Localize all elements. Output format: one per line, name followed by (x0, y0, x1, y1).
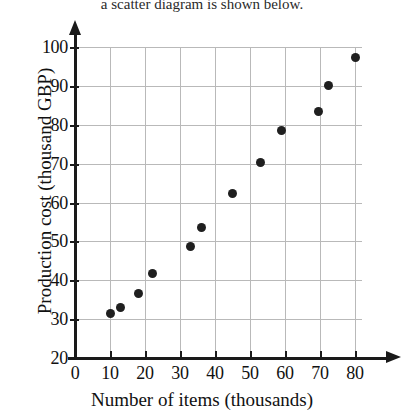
gridline-horizontal (75, 319, 362, 320)
x-axis-tick (355, 351, 357, 360)
x-axis-tick-label: 50 (230, 364, 270, 382)
data-point (314, 107, 323, 116)
y-axis-line (74, 33, 77, 360)
y-axis-tick (70, 125, 79, 127)
x-axis-tick-label: 10 (90, 364, 130, 382)
x-axis-tick-label: 60 (265, 364, 305, 382)
data-point (148, 269, 157, 278)
y-axis-tick-label: 100 (42, 38, 68, 56)
gridline-horizontal (75, 125, 362, 126)
gridline-horizontal (75, 86, 362, 87)
x-axis-line (68, 357, 388, 360)
y-axis-tick-label: 50 (51, 232, 68, 250)
data-point (324, 81, 333, 90)
x-axis-tick-label: 30 (160, 364, 200, 382)
gridline-horizontal (75, 164, 362, 165)
y-axis-tick-label: 90 (51, 77, 68, 95)
x-axis-arrowhead (386, 351, 401, 363)
y-axis-tick-label: 60 (51, 194, 68, 212)
gridline-horizontal (75, 280, 362, 281)
x-axis-tick (320, 351, 322, 360)
y-axis-tick (70, 280, 79, 282)
x-axis-title: Number of items (thousands) (0, 389, 404, 411)
gridline-horizontal (75, 203, 362, 204)
scatter-diagram-figure: a scatter diagram is shown below. Number… (0, 0, 404, 415)
plot-area (75, 47, 362, 358)
y-axis-tick-label: 40 (51, 271, 68, 289)
gridline-horizontal (75, 241, 362, 242)
gridline-horizontal (75, 47, 362, 48)
data-point (256, 158, 265, 167)
page-text-fragment: a scatter diagram is shown below. (0, 0, 404, 12)
data-point (134, 289, 143, 298)
y-axis-tick (70, 319, 79, 321)
x-axis-tick (145, 351, 147, 360)
x-axis-tick-label: 40 (195, 364, 235, 382)
data-point (106, 309, 115, 318)
data-point (228, 189, 237, 198)
x-axis-tick-label: 70 (300, 364, 340, 382)
y-axis-tick (70, 241, 79, 243)
x-axis-tick (180, 351, 182, 360)
y-axis-tick (70, 164, 79, 166)
y-axis-tick (70, 203, 79, 205)
x-axis-tick (285, 351, 287, 360)
x-axis-tick-label: 0 (55, 364, 95, 382)
data-point (186, 242, 195, 251)
data-point (197, 223, 206, 232)
y-axis-tick (70, 86, 79, 88)
x-axis-tick-label: 80 (335, 364, 375, 382)
x-axis-tick (250, 351, 252, 360)
data-point (351, 53, 360, 62)
x-axis-tick (110, 351, 112, 360)
x-axis-tick (75, 351, 77, 360)
y-axis-tick-label: 70 (51, 155, 68, 173)
x-axis-tick-label: 20 (125, 364, 165, 382)
y-axis-tick-label: 80 (51, 116, 68, 134)
y-axis-tick-label: 30 (51, 310, 68, 328)
y-axis-tick (70, 47, 79, 49)
data-point (116, 303, 125, 312)
y-axis-arrowhead (69, 20, 81, 35)
x-axis-tick (215, 351, 217, 360)
